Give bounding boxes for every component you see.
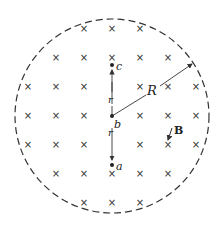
field-cross-icon: × — [80, 197, 88, 208]
field-cross-icon: × — [164, 52, 172, 63]
field-cross-icon: × — [108, 52, 116, 63]
field-cross-icon: × — [52, 168, 60, 179]
field-cross-icon: × — [192, 81, 200, 92]
field-cross-icon: × — [136, 197, 144, 208]
field-cross-icon: × — [136, 139, 144, 150]
label-R: R — [146, 83, 157, 98]
field-cross-icon: × — [108, 23, 116, 34]
label-r-upper: r — [108, 94, 114, 105]
field-cross-icon: × — [80, 81, 88, 92]
field-cross-icon: × — [192, 110, 200, 121]
field-cross-icon: × — [52, 81, 60, 92]
field-cross-icon: × — [136, 168, 144, 179]
field-cross-icon: × — [164, 110, 172, 121]
field-cross-icon: × — [108, 168, 116, 179]
label-B: B — [174, 124, 183, 137]
field-cross-icon: × — [80, 23, 88, 34]
radius-arrow — [160, 64, 192, 86]
field-cross-icon: × — [192, 139, 200, 150]
field-cross-icon: × — [108, 197, 116, 208]
magnetic-field-diagram: ×××××××××××××××××××××××××××××××××× c b a… — [0, 0, 214, 225]
field-cross-icon: × — [24, 139, 32, 150]
field-cross-icon: × — [52, 139, 60, 150]
field-cross-icon: × — [52, 110, 60, 121]
label-a: a — [116, 160, 123, 173]
point-a-dot — [110, 163, 114, 167]
field-cross-icon: × — [80, 110, 88, 121]
label-b: b — [114, 118, 121, 131]
field-cross-icon: × — [164, 139, 172, 150]
field-cross-icon: × — [80, 168, 88, 179]
field-cross-icon: × — [136, 52, 144, 63]
field-cross-icon: × — [24, 81, 32, 92]
label-c: c — [116, 60, 122, 73]
field-cross-icon: × — [136, 110, 144, 121]
field-cross-icon: × — [24, 110, 32, 121]
point-c-dot — [110, 63, 114, 67]
field-cross-icon: × — [52, 52, 60, 63]
field-cross-icon: × — [136, 23, 144, 34]
field-cross-icon: × — [80, 52, 88, 63]
field-cross-icon: × — [164, 168, 172, 179]
field-cross-icon: × — [136, 81, 144, 92]
field-cross-icon: × — [80, 139, 88, 150]
